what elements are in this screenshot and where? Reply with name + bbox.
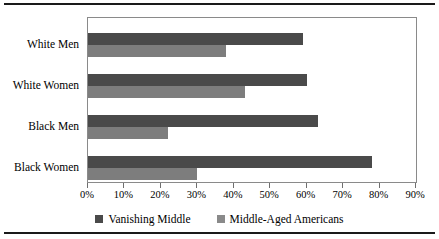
bar-vanishing-middle-white-men: [88, 33, 303, 45]
category-axis-labels: White Men White Women Black Men Black Wo…: [0, 17, 83, 183]
bar-chart-figure: White Men White Women Black Men Black Wo…: [0, 0, 439, 239]
legend-label-middle-aged-americans: Middle-Aged Americans: [230, 212, 344, 226]
top-divider-rule: [4, 3, 435, 5]
bar-vanishing-middle-black-women: [88, 156, 372, 168]
bar-vanishing-middle-white-women: [88, 74, 307, 86]
chart-legend: Vanishing Middle Middle-Aged Americans: [0, 211, 439, 227]
category-label-white-women: White Women: [0, 79, 79, 91]
legend-swatch-icon-middle-aged-americans: [217, 215, 225, 223]
bottom-divider-rule: [4, 232, 435, 234]
x-axis-tick-labels: 0%10%20%30%40%50%60%70%80%90%: [0, 188, 439, 204]
category-label-white-men: White Men: [0, 38, 79, 50]
legend-swatch-icon-vanishing-middle: [95, 215, 103, 223]
legend-label-vanishing-middle: Vanishing Middle: [108, 212, 190, 226]
x-axis-tick-label: 90%: [393, 188, 437, 202]
bar-middle-aged-black-men: [88, 127, 168, 139]
legend-item-middle-aged-americans: Middle-Aged Americans: [217, 212, 344, 226]
category-label-black-men: Black Men: [0, 120, 79, 132]
bar-middle-aged-black-women: [88, 168, 197, 180]
bar-middle-aged-white-women: [88, 86, 245, 98]
bar-vanishing-middle-black-men: [88, 115, 318, 127]
bar-middle-aged-white-men: [88, 45, 226, 57]
category-label-black-women: Black Women: [0, 161, 79, 173]
legend-item-vanishing-middle: Vanishing Middle: [95, 212, 190, 226]
bars-layer: [88, 18, 416, 182]
